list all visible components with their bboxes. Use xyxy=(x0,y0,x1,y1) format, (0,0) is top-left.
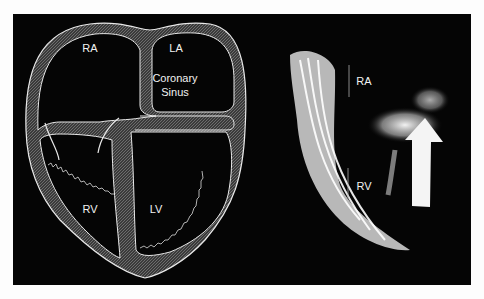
label-ra-diagram: RA xyxy=(75,42,105,54)
label-ra-echo: RA xyxy=(352,75,376,87)
label-la-diagram: LA xyxy=(161,42,191,54)
heart-diagram xyxy=(0,0,484,299)
echo-rv-wall xyxy=(290,51,410,250)
label-coronary-sinus-line2: Sinus xyxy=(140,86,210,98)
label-lv-diagram: LV xyxy=(141,203,171,215)
label-rv-diagram: RV xyxy=(75,203,105,215)
label-rv-echo: RV xyxy=(352,180,376,192)
left-ventricle-chamber xyxy=(131,132,232,256)
label-coronary-sinus-line1: Coronary xyxy=(140,72,210,84)
echo-septum-streak xyxy=(388,150,395,195)
echo-upper-speckle xyxy=(410,86,450,114)
